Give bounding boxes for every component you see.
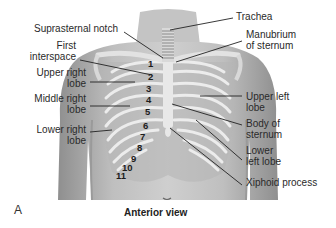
label-lower-right-lobe: Lower right lobe [20,124,86,146]
panel-letter: A [14,203,22,217]
label-lower-left-lobe: Lower left lobe [246,145,281,167]
label-upper-right-lobe: Upper right lobe [20,67,86,89]
rib-number-6: 6 [143,120,148,131]
rib-number-3: 3 [146,83,151,94]
label-suprasternal-notch: Suprasternal notch [34,23,118,34]
anatomy-figure: Suprasternal notch First interspace Uppe… [0,0,336,228]
rib-number-11: 11 [116,170,126,181]
rib-number-1: 1 [148,58,153,69]
rib-number-8: 8 [137,142,142,153]
label-first-interspace: First interspace [24,40,76,62]
rib-number-5: 5 [145,106,150,117]
label-manubrium-of-sternum: Manubrium of sternum [246,29,296,51]
rib-number-4: 4 [146,94,151,105]
label-middle-right-lobe: Middle right lobe [20,93,86,115]
label-body-of-sternum: Body of sternum [246,118,282,140]
rib-number-7: 7 [140,131,145,142]
rib-number-2: 2 [148,71,153,82]
label-xiphoid-process: Xiphoid process [246,177,317,188]
label-upper-left-lobe: Upper left lobe [246,91,289,113]
figure-caption: Anterior view [124,207,187,218]
label-trachea: Trachea [236,11,272,22]
